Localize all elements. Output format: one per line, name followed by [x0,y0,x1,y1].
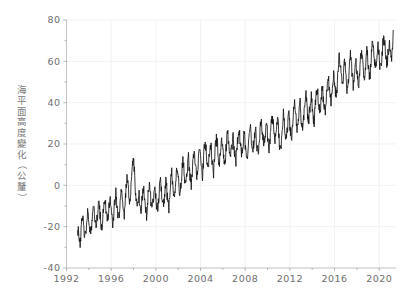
y-axis-title-char: 公 [17,170,27,181]
y-axis-title-char: 變 [17,138,27,149]
x-axis-tick-labels: 19921996200020042008201220162020 [53,273,392,284]
x-tick-label: 2004 [187,273,213,284]
y-axis-title: 海平面高度變化（公釐） [17,84,28,203]
chart-canvas: 806040200-20-40 199219962000200420082012… [0,0,410,299]
x-tick-label: 2008 [232,273,258,284]
y-axis-title-char: 度 [17,127,27,138]
y-tick-label: 60 [47,56,60,67]
x-tick-label: 2000 [143,273,169,284]
y-tick-label: 20 [47,138,60,149]
y-axis-title-char: 高 [17,116,27,127]
x-tick-label: 1996 [98,273,124,284]
gridlines-group [67,20,397,268]
y-axis-title-char: 平 [17,95,27,106]
x-tick-label: 1992 [53,273,79,284]
y-axis-title-char: 化 [17,149,27,160]
y-axis-title-char: 面 [17,106,27,117]
y-tick-label: 0 [54,180,61,191]
data-series-group [78,30,394,247]
x-tick-label: 2012 [277,273,303,284]
y-axis-title-char: （ [17,160,28,170]
y-axis-title-char: 海 [17,84,27,95]
y-axis-title-char: 釐 [17,181,27,192]
x-tick-label: 2016 [321,273,347,284]
y-tick-label: 40 [47,97,60,108]
y-tick-label: 80 [47,14,60,25]
y-axis-title-char: ） [17,193,28,203]
series-line-0 [78,30,394,247]
y-tick-label: -20 [43,221,60,232]
y-tick-label: -40 [43,262,60,273]
y-axis-tick-labels: 806040200-20-40 [43,14,60,273]
sea-level-chart: 806040200-20-40 199219962000200420082012… [0,0,410,299]
x-tick-label: 2020 [366,273,392,284]
